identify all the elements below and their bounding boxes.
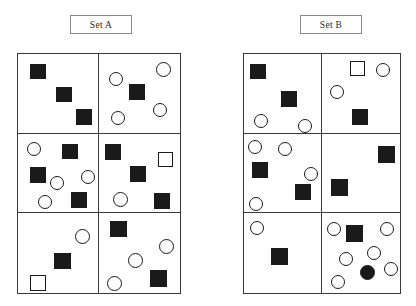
circle-open-icon <box>250 221 264 235</box>
square-filled-icon <box>252 162 268 178</box>
circle-open-icon <box>153 103 167 117</box>
circle-open-icon <box>111 111 125 125</box>
circle-open-icon <box>81 170 95 184</box>
square-filled-icon <box>378 146 395 163</box>
square-filled-icon <box>150 270 167 287</box>
square-filled-icon <box>105 144 121 160</box>
square-filled-icon <box>56 87 72 102</box>
circle-open-icon <box>330 85 344 99</box>
set-a-grid <box>17 53 181 294</box>
circle-open-icon <box>75 229 90 244</box>
square-open-icon <box>30 275 46 291</box>
circle-open-icon <box>128 253 143 268</box>
square-open-icon <box>350 61 365 76</box>
circle-open-icon <box>367 246 381 260</box>
square-filled-icon <box>281 91 297 107</box>
grid-cell-a4 <box>99 134 180 214</box>
circle-open-icon <box>109 72 123 86</box>
circle-open-icon <box>156 62 171 77</box>
circle-open-icon <box>50 176 64 190</box>
circle-open-icon <box>113 192 128 207</box>
circle-open-icon <box>27 142 41 156</box>
circle-open-icon <box>304 167 318 181</box>
square-filled-icon <box>271 248 288 265</box>
figure-canvas: Set A Set B <box>0 0 416 306</box>
set-a-label: Set A <box>70 15 132 34</box>
grid-cell-b1 <box>244 54 322 134</box>
circle-open-icon <box>38 195 52 209</box>
circle-open-icon <box>298 119 312 133</box>
grid-cell-b3 <box>244 134 322 214</box>
set-b-label: Set B <box>300 15 362 34</box>
square-filled-icon <box>110 221 127 237</box>
grid-cell-b4 <box>322 134 400 214</box>
circle-open-icon <box>248 140 262 154</box>
circle-open-icon <box>327 222 341 236</box>
circle-open-icon <box>107 276 122 291</box>
grid-cell-a6 <box>99 213 180 293</box>
grid-cell-a1 <box>18 54 99 134</box>
circle-open-icon <box>254 114 268 128</box>
square-filled-icon <box>30 167 46 183</box>
square-filled-icon <box>130 166 146 182</box>
set-b-grid <box>243 53 401 294</box>
grid-cell-a3 <box>18 134 99 214</box>
square-filled-icon <box>352 109 368 125</box>
square-filled-icon <box>54 253 71 269</box>
circle-open-icon <box>278 142 292 156</box>
grid-cell-a2 <box>99 54 180 134</box>
grid-cell-a5 <box>18 213 99 293</box>
grid-cell-b2 <box>322 54 400 134</box>
square-filled-icon <box>76 109 92 125</box>
square-filled-icon <box>129 84 145 100</box>
square-filled-icon <box>331 179 348 196</box>
grid-cell-b6 <box>322 213 400 293</box>
square-open-icon <box>158 152 173 167</box>
square-filled-icon <box>62 144 78 159</box>
square-filled-icon <box>71 192 87 208</box>
circle-filled-icon <box>360 265 375 280</box>
circle-open-icon <box>331 275 345 289</box>
square-filled-icon <box>30 64 46 79</box>
circle-open-icon <box>376 63 390 77</box>
square-filled-icon <box>250 64 266 79</box>
circle-open-icon <box>159 239 174 254</box>
square-filled-icon <box>295 184 311 200</box>
square-filled-icon <box>154 193 170 209</box>
circle-open-icon <box>249 197 263 211</box>
circle-open-icon <box>339 252 353 266</box>
circle-open-icon <box>384 262 398 276</box>
circle-open-icon <box>380 222 394 236</box>
grid-cell-b5 <box>244 213 322 293</box>
square-filled-icon <box>346 225 363 242</box>
